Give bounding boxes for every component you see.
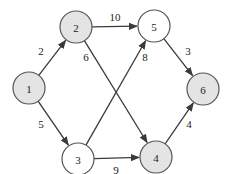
node-label: 2 (73, 22, 79, 34)
node-label: 4 (153, 152, 159, 164)
graph-canvas: 123456 251068934 (0, 0, 232, 174)
edges-layer (38, 26, 193, 158)
edge-weight-4-6: 4 (186, 118, 192, 130)
node-3: 3 (62, 143, 94, 174)
node-label: 3 (75, 154, 81, 166)
node-4: 4 (140, 141, 172, 173)
edge-weight-5-6: 3 (185, 45, 191, 57)
edge-weight-3-5: 8 (142, 51, 148, 63)
node-label: 1 (26, 83, 32, 95)
node-label: 5 (151, 21, 157, 33)
edge-weight-1-2: 2 (38, 45, 44, 57)
edge-2-5 (92, 26, 137, 27)
edge-2-4 (84, 41, 147, 143)
edge-weight-1-3: 5 (38, 118, 44, 130)
node-2: 2 (60, 11, 92, 43)
edge-weight-3-4: 9 (113, 164, 119, 174)
node-1: 1 (13, 72, 45, 104)
node-5: 5 (138, 10, 170, 42)
edge-3-4 (94, 157, 139, 158)
node-label: 6 (200, 84, 206, 96)
edge-3-5 (86, 41, 146, 145)
edge-weight-2-5: 10 (110, 11, 122, 23)
edge-weight-2-4: 6 (83, 51, 89, 63)
node-6: 6 (187, 73, 219, 105)
